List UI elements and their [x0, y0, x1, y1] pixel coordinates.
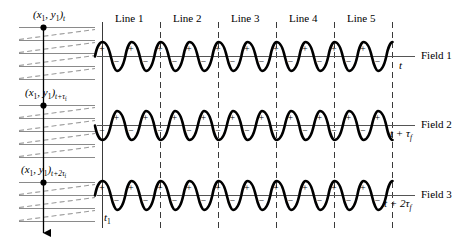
field-2-plus-marker: + [114, 114, 119, 124]
field-2-minus-marker: − [186, 127, 191, 137]
field-2-minus-marker: − [331, 127, 336, 137]
field-3-minus-marker: − [143, 197, 148, 207]
field-2-minus-marker: − [302, 127, 307, 137]
field-3-plus-marker: + [128, 184, 133, 194]
field-3-plus-marker: + [360, 184, 365, 194]
field-1-plus-marker: + [99, 45, 104, 55]
field-2-minus-marker: − [273, 127, 278, 137]
origin-time-label: t1 [104, 212, 111, 226]
field-1-minus-marker: − [288, 58, 293, 68]
field-1-plus-marker: + [215, 45, 220, 55]
field-2-minus-marker: − [99, 127, 104, 137]
field-3-plus-marker: + [215, 184, 220, 194]
field-3-minus-marker: − [346, 197, 351, 207]
field-label-3: Field 3 [421, 189, 452, 200]
field-2-minus-marker: − [244, 127, 249, 137]
axis-label-field-3: t + 2τf [384, 198, 412, 212]
field-1-plus-marker: + [331, 45, 336, 55]
field-1-plus-marker: + [186, 45, 191, 55]
diagram-canvas: (x1, y1)t (x1, y1)t+τf (x1, y1)t+2τf Lin… [0, 0, 467, 246]
field-2-plus-marker: + [259, 114, 264, 124]
axis-label-field-2: t + τf [390, 128, 412, 142]
field-3-minus-marker: − [259, 197, 264, 207]
field-3-plus-marker: + [99, 184, 104, 194]
field-1-plus-marker: + [302, 45, 307, 55]
field-1-minus-marker: − [201, 58, 206, 68]
field-3-minus-marker: − [230, 197, 235, 207]
field-3-plus-marker: + [331, 184, 336, 194]
line-header-4: Line 4 [289, 13, 317, 24]
field-3-minus-marker: − [375, 197, 380, 207]
line-header-5: Line 5 [347, 13, 375, 24]
field-2-minus-marker: − [128, 127, 133, 137]
field-1-plus-marker: + [273, 45, 278, 55]
axis-label-field-1: t [399, 60, 402, 71]
field-1-minus-marker: − [143, 58, 148, 68]
field-label-2: Field 2 [421, 119, 452, 130]
field-1-plus-marker: + [244, 45, 249, 55]
field-3-plus-marker: + [273, 184, 278, 194]
field-2-plus-marker: + [230, 114, 235, 124]
line-header-1: Line 1 [115, 13, 143, 24]
field-2-plus-marker: + [346, 114, 351, 124]
field-1-minus-marker: − [259, 58, 264, 68]
field-2-minus-marker: − [215, 127, 220, 137]
field-2-plus-marker: + [288, 114, 293, 124]
field-1-plus-marker: + [360, 45, 365, 55]
field-2-minus-marker: − [157, 127, 162, 137]
field-1-plus-marker: + [157, 45, 162, 55]
field-3-minus-marker: − [201, 197, 206, 207]
field-1-minus-marker: − [317, 58, 322, 68]
field-1-minus-marker: − [114, 58, 119, 68]
field-1-minus-marker: − [230, 58, 235, 68]
field-3-minus-marker: − [172, 197, 177, 207]
field-2-plus-marker: + [201, 114, 206, 124]
field-3-plus-marker: + [186, 184, 191, 194]
field-3-plus-marker: + [302, 184, 307, 194]
field-1-minus-marker: − [346, 58, 351, 68]
field-2-minus-marker: − [360, 127, 365, 137]
field-2-plus-marker: + [143, 114, 148, 124]
field-1-minus-marker: − [375, 58, 380, 68]
field-3-minus-marker: − [114, 197, 119, 207]
field-3-minus-marker: − [288, 197, 293, 207]
field-1-minus-marker: − [172, 58, 177, 68]
field-3-minus-marker: − [317, 197, 322, 207]
field-1-plus-marker: + [128, 45, 133, 55]
field-2-plus-marker: + [317, 114, 322, 124]
field-2-plus-marker: + [375, 114, 380, 124]
line-header-2: Line 2 [173, 13, 201, 24]
field-label-1: Field 1 [421, 50, 452, 61]
field-2-plus-marker: + [172, 114, 177, 124]
field-3-plus-marker: + [157, 184, 162, 194]
field-3-plus-marker: + [244, 184, 249, 194]
line-header-3: Line 3 [231, 13, 259, 24]
